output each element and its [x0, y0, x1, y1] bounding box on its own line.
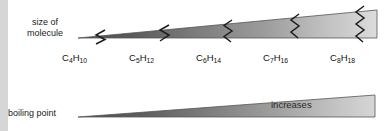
- formula-element: C: [330, 52, 337, 63]
- molecule-formula-c8h18: C8H18: [330, 53, 355, 64]
- boiling-point-label: boiling point: [8, 108, 80, 119]
- molecule-formula-c4h10: C4H10: [62, 53, 87, 64]
- size-of-molecule-label: size of molecule: [14, 17, 76, 39]
- formula-element: C: [263, 52, 270, 63]
- figure-root: size of molecule boiling point increases…: [0, 0, 389, 131]
- formula-hydrogen-count: 12: [147, 57, 155, 64]
- formula-carbon-count: 8: [337, 57, 341, 64]
- formula-hydrogen: H: [140, 52, 147, 63]
- formula-hydrogen-count: 10: [80, 57, 88, 64]
- molecule-formula-c6h14: C6H14: [196, 53, 221, 64]
- formula-hydrogen: H: [207, 52, 214, 63]
- formula-carbon-count: 7: [270, 57, 274, 64]
- formula-hydrogen-count: 16: [281, 57, 289, 64]
- formula-carbon-count: 4: [69, 57, 73, 64]
- formula-element: C: [62, 52, 69, 63]
- formula-hydrogen-count: 18: [348, 57, 356, 64]
- formula-carbon-count: 6: [203, 57, 207, 64]
- molecule-formula-c7h16: C7H16: [263, 53, 288, 64]
- molecule-formula-c5h12: C5H12: [129, 53, 154, 64]
- formula-hydrogen-count: 14: [214, 57, 222, 64]
- formula-hydrogen: H: [73, 52, 80, 63]
- formula-hydrogen: H: [341, 52, 348, 63]
- formula-element: C: [129, 52, 136, 63]
- formula-hydrogen: H: [274, 52, 281, 63]
- increases-annotation: increases: [271, 99, 312, 110]
- formula-carbon-count: 5: [136, 57, 140, 64]
- boiling-point-wedge: [78, 95, 375, 117]
- formula-element: C: [196, 52, 203, 63]
